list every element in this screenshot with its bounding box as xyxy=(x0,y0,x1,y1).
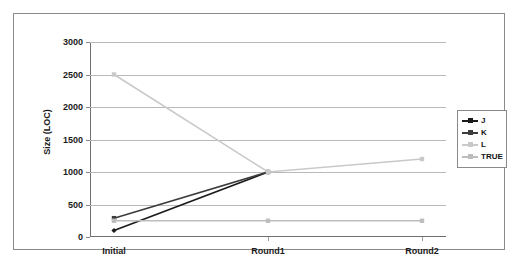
y-axis-tick xyxy=(86,237,90,238)
series-line-l xyxy=(114,75,422,173)
series-marker-l xyxy=(112,72,116,76)
y-axis-title-label: Size (LOC) xyxy=(42,109,52,155)
series-line-k xyxy=(114,172,268,218)
series-marker-true xyxy=(420,219,424,223)
legend-item-label: L xyxy=(479,139,486,151)
x-axis-tick-label: Round2 xyxy=(405,246,439,256)
legend-swatch-icon xyxy=(461,127,479,139)
y-axis-tick-label: 1500 xyxy=(63,135,83,145)
series-marker-true xyxy=(266,219,270,223)
x-axis-tick xyxy=(422,237,423,241)
plot-area: 050010001500200025003000 InitialRound1Ro… xyxy=(90,42,446,237)
y-axis-tick-label: 3000 xyxy=(63,37,83,47)
chart-legend: JKLTRUE xyxy=(457,110,507,168)
legend-item-j[interactable]: J xyxy=(461,115,503,127)
legend-swatch-icon xyxy=(461,151,479,163)
series-marker-l xyxy=(420,157,424,161)
legend-item-k[interactable]: K xyxy=(461,127,503,139)
y-axis-tick-label: 0 xyxy=(78,232,83,242)
legend-item-l[interactable]: L xyxy=(461,139,503,151)
legend-swatch-icon xyxy=(461,139,479,151)
legend-item-true[interactable]: TRUE xyxy=(461,151,503,163)
x-axis-tick-label: Round1 xyxy=(251,246,285,256)
x-axis-tick-label: Initial xyxy=(102,246,126,256)
data-series-layer xyxy=(90,42,446,237)
series-marker-j xyxy=(111,228,116,233)
y-axis-tick-label: 500 xyxy=(68,200,83,210)
y-axis-tick-label: 2000 xyxy=(63,102,83,112)
legend-item-label: TRUE xyxy=(479,151,503,163)
y-axis-title: Size (LOC) xyxy=(40,76,54,188)
series-marker-l xyxy=(266,170,270,174)
y-axis-tick-label: 2500 xyxy=(63,70,83,80)
legend-item-label: J xyxy=(479,115,485,127)
legend-swatch-icon xyxy=(461,115,479,127)
x-axis-tick xyxy=(268,237,269,241)
legend-item-label: K xyxy=(479,127,487,139)
series-line-j xyxy=(114,172,268,231)
y-axis-tick-label: 1000 xyxy=(63,167,83,177)
chart-frame: Size (LOC) 050010001500200025003000 Init… xyxy=(13,13,505,250)
series-marker-true xyxy=(112,219,116,223)
